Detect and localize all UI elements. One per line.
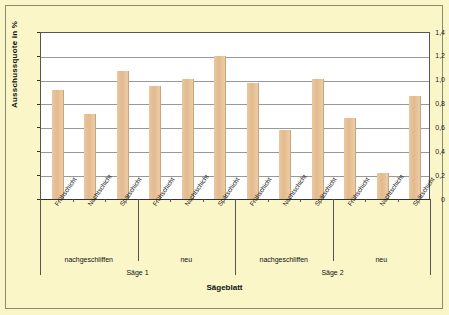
group1-label-0: nachgeschliffen bbox=[40, 256, 138, 263]
bar bbox=[52, 90, 64, 199]
group2-label-0: Säge 1 bbox=[40, 269, 235, 276]
bar bbox=[344, 118, 356, 199]
y-axis-title: Ausschussquote in % bbox=[10, 0, 19, 135]
group2-separator bbox=[430, 199, 431, 275]
group1-label-1: neu bbox=[138, 256, 236, 263]
x-minor-tick bbox=[73, 199, 74, 202]
group1-label-3: neu bbox=[333, 256, 431, 263]
x-minor-tick bbox=[105, 199, 106, 202]
group2-separator bbox=[40, 199, 41, 275]
gridline bbox=[41, 81, 429, 82]
x-minor-tick bbox=[170, 199, 171, 202]
gridline bbox=[41, 152, 429, 153]
x-minor-tick bbox=[300, 199, 301, 202]
group2-label-1: Säge 2 bbox=[235, 269, 430, 276]
x-minor-tick bbox=[268, 199, 269, 202]
group1-separator bbox=[333, 199, 334, 261]
group1-separator bbox=[138, 199, 139, 261]
gridline bbox=[41, 57, 429, 58]
bar bbox=[149, 86, 161, 199]
bar bbox=[247, 83, 259, 199]
x-minor-tick bbox=[203, 199, 204, 202]
group2-separator bbox=[235, 199, 236, 275]
bar bbox=[182, 79, 194, 199]
bar bbox=[117, 71, 129, 199]
x-axis-title: Sägeblatt bbox=[0, 283, 449, 292]
gridline bbox=[41, 104, 429, 105]
group1-label-2: nachgeschliffen bbox=[235, 256, 333, 263]
bar bbox=[312, 79, 324, 199]
x-minor-tick bbox=[398, 199, 399, 202]
plot-area bbox=[40, 32, 430, 199]
x-minor-tick bbox=[365, 199, 366, 202]
bar bbox=[409, 96, 421, 199]
bar bbox=[84, 114, 96, 199]
bar bbox=[214, 56, 226, 199]
gridline bbox=[41, 128, 429, 129]
chart-figure: Ausschussquote in % 1,4 1,2 1,0 0,8 0,6 … bbox=[0, 0, 449, 315]
